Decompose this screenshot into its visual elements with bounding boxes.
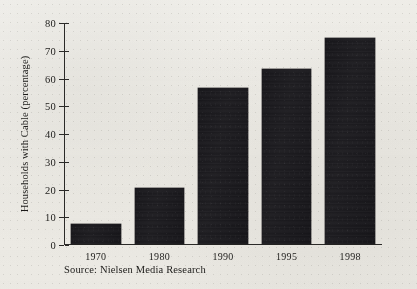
x-tick-label: 1998: [340, 251, 361, 262]
y-tick-mark: [59, 217, 64, 218]
y-tick-mark-inner: [65, 51, 69, 52]
y-tick-label: 50: [45, 101, 56, 112]
y-tick-mark-inner: [65, 217, 69, 218]
y-tick-label: 80: [45, 18, 56, 29]
y-tick-mark-inner: [65, 162, 69, 163]
source-note: Source: Nielsen Media Research: [64, 264, 206, 275]
y-tick-mark: [59, 23, 64, 24]
bar: [71, 224, 121, 243]
x-axis-line: [64, 244, 382, 245]
x-tick-label: 1970: [85, 251, 106, 262]
plot-area: 01020304050607080 19701980199019951998: [64, 23, 382, 245]
y-tick-mark: [59, 79, 64, 80]
y-tick-mark: [59, 51, 64, 52]
y-tick-mark-inner: [65, 245, 69, 246]
y-tick-label: 70: [45, 45, 56, 56]
y-tick-label: 20: [45, 184, 56, 195]
bar: [198, 88, 248, 243]
bar: [262, 69, 312, 244]
y-tick-mark: [59, 134, 64, 135]
y-tick-label: 60: [45, 73, 56, 84]
y-tick-label: 30: [45, 156, 56, 167]
y-tick-mark: [59, 162, 64, 163]
bar: [135, 188, 185, 244]
y-tick-mark-inner: [65, 23, 69, 24]
y-tick-label: 0: [51, 240, 56, 251]
x-tick-label: 1990: [212, 251, 233, 262]
y-tick-mark-inner: [65, 190, 69, 191]
bar: [325, 38, 375, 243]
y-tick-mark-inner: [65, 79, 69, 80]
y-tick-mark: [59, 245, 64, 246]
y-tick-mark: [59, 106, 64, 107]
y-tick-label: 10: [45, 212, 56, 223]
y-axis-title: Households with Cable (percentage): [19, 56, 30, 212]
bar-chart-figure: Households with Cable (percentage) 01020…: [0, 0, 417, 289]
y-tick-mark-inner: [65, 106, 69, 107]
y-tick-mark-inner: [65, 134, 69, 135]
y-tick-label: 40: [45, 129, 56, 140]
x-tick-label: 1995: [276, 251, 297, 262]
x-tick-label: 1980: [149, 251, 170, 262]
y-tick-mark: [59, 190, 64, 191]
